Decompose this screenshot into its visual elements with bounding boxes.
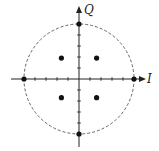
q-axis-label: Q: [84, 3, 94, 17]
constellation-point: [131, 76, 136, 81]
constellation-point: [76, 131, 81, 136]
i-axis-label: I: [146, 72, 152, 86]
constellation-point: [76, 21, 81, 26]
q-axis-arrow-icon: [76, 6, 82, 13]
constellation-point: [94, 56, 99, 61]
constellation-point: [21, 76, 26, 81]
constellation-point: [59, 56, 64, 61]
constellation-diagram: Q I: [0, 0, 159, 151]
axes: [11, 6, 146, 147]
constellation-point: [94, 95, 99, 100]
i-axis-arrow-icon: [139, 76, 146, 82]
constellation-point: [59, 95, 64, 100]
